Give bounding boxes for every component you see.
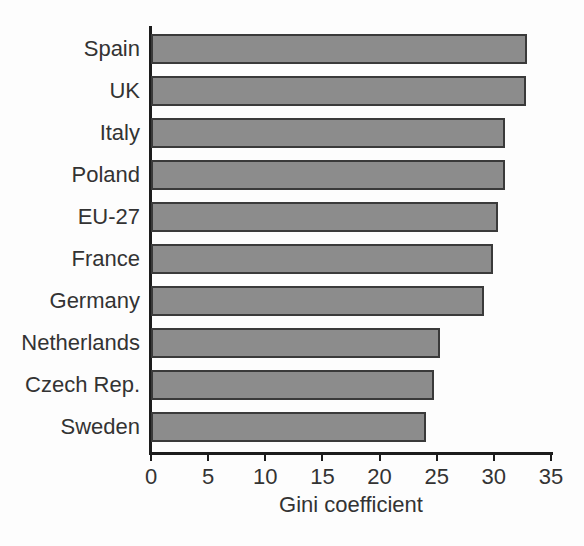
bar-row: Poland <box>151 153 551 195</box>
bar <box>151 286 484 316</box>
x-tick <box>379 452 381 461</box>
x-tick-label: 30 <box>482 464 506 490</box>
x-tick <box>436 452 438 461</box>
x-tick-label: 5 <box>202 464 214 490</box>
bar <box>151 160 505 190</box>
bar-row: Czech Rep. <box>151 363 551 405</box>
x-tick <box>321 452 323 461</box>
bar-row: UK <box>151 69 551 111</box>
category-label: France <box>72 244 140 274</box>
category-label: EU-27 <box>78 202 140 232</box>
x-tick-label: 15 <box>310 464 334 490</box>
category-label: Germany <box>50 286 140 316</box>
plot-area: 05101520253035 SpainUKItalyPolandEU-27Fr… <box>151 26 551 452</box>
category-label: Sweden <box>60 412 140 442</box>
x-tick <box>207 452 209 461</box>
bar-row: Italy <box>151 111 551 153</box>
bar <box>151 328 440 358</box>
category-label: Czech Rep. <box>25 370 140 400</box>
chart-subtitle-ghost <box>170 1 570 13</box>
x-tick-label: 0 <box>145 464 157 490</box>
category-label: UK <box>109 76 140 106</box>
bar <box>151 34 527 64</box>
bar <box>151 202 498 232</box>
x-tick-label: 35 <box>539 464 563 490</box>
bar <box>151 244 493 274</box>
bar-row: Spain <box>151 27 551 69</box>
chart-figure: 05101520253035 SpainUKItalyPolandEU-27Fr… <box>0 0 584 546</box>
x-tick <box>264 452 266 461</box>
bar <box>151 76 526 106</box>
bar <box>151 118 505 148</box>
category-label: Italy <box>100 118 140 148</box>
x-tick <box>493 452 495 461</box>
x-tick-label: 20 <box>367 464 391 490</box>
category-label: Netherlands <box>21 328 140 358</box>
bar-row: Netherlands <box>151 321 551 363</box>
x-tick <box>150 452 152 461</box>
x-tick <box>550 452 552 461</box>
bar-row: EU-27 <box>151 195 551 237</box>
bar <box>151 370 434 400</box>
category-label: Poland <box>71 160 140 190</box>
x-tick-label: 10 <box>253 464 277 490</box>
x-tick-label: 25 <box>424 464 448 490</box>
bar-row: Germany <box>151 279 551 321</box>
category-label: Spain <box>84 34 140 64</box>
x-axis-title: Gini coefficient <box>151 492 551 518</box>
bar-row: Sweden <box>151 405 551 447</box>
bar <box>151 412 426 442</box>
bar-row: France <box>151 237 551 279</box>
